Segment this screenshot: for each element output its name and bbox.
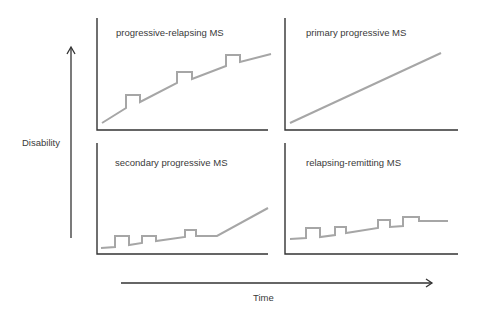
- panel-title-progressive-relapsing: progressive-relapsing MS: [116, 27, 224, 38]
- curve-primary-progressive: [290, 53, 441, 123]
- curve-secondary-progressive: [101, 208, 268, 248]
- curve-progressive-relapsing: [102, 54, 271, 123]
- disability-axis-arrow: [67, 47, 75, 238]
- time-axis-arrow: [121, 279, 432, 287]
- panel-title-relapsing-remitting: relapsing-remitting MS: [306, 157, 401, 168]
- y-axis-label: Disability: [22, 137, 60, 148]
- ms-course-diagram: [0, 0, 481, 318]
- panel-title-secondary-progressive: secondary progressive MS: [115, 157, 227, 168]
- curve-relapsing-remitting: [290, 217, 448, 239]
- panel-curves: [101, 53, 448, 248]
- x-axis-label: Time: [253, 292, 274, 303]
- panel-title-primary-progressive: primary progressive MS: [306, 27, 406, 38]
